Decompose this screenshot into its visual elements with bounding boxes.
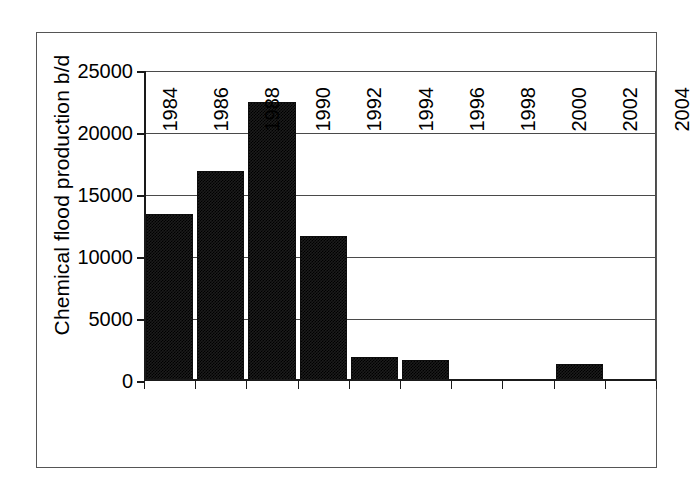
x-axis-line [144, 379, 656, 381]
x-tick-label: 2000 [568, 87, 591, 132]
y-tick [137, 381, 144, 383]
x-tick-label: 1988 [261, 87, 284, 132]
gridline [144, 71, 656, 72]
y-tick-label: 20000 [77, 122, 133, 145]
x-tick [656, 381, 657, 389]
y-tick-label: 10000 [77, 246, 133, 269]
y-tick [137, 257, 144, 259]
x-tick-label: 2004 [670, 87, 693, 132]
x-tick-label: 1998 [517, 87, 540, 132]
y-tick [137, 319, 144, 321]
y-tick [137, 133, 144, 135]
x-tick [451, 381, 452, 389]
y-tick-label: 5000 [89, 308, 134, 331]
bar [402, 360, 449, 381]
x-tick-label: 1984 [158, 87, 181, 132]
x-tick [349, 381, 350, 389]
y-tick-label: 25000 [77, 60, 133, 83]
x-tick-label: 1996 [465, 87, 488, 132]
y-axis-line [144, 71, 146, 381]
x-tick [195, 381, 196, 389]
x-tick [605, 381, 606, 389]
y-tick [137, 71, 144, 73]
x-tick-label: 1990 [312, 87, 335, 132]
x-tick [554, 381, 555, 389]
bar [146, 214, 193, 381]
bar [300, 236, 347, 381]
x-tick-label: 2002 [619, 87, 642, 132]
x-tick [246, 381, 247, 389]
x-tick [400, 381, 401, 389]
plot-area: 0500010000150002000025000 19841986198819… [144, 71, 656, 381]
y-tick [137, 195, 144, 197]
bar [248, 102, 295, 381]
chart-figure: Chemical flood production b/d 0500010000… [36, 32, 657, 468]
x-tick [502, 381, 503, 389]
bar [351, 357, 398, 381]
gridline [144, 133, 656, 134]
x-tick [298, 381, 299, 389]
x-tick-label: 1986 [209, 87, 232, 132]
y-axis-title: Chemical flood production b/d [50, 30, 74, 360]
bar [197, 171, 244, 381]
plot-right-border [655, 71, 656, 381]
y-tick-label: 0 [122, 370, 133, 393]
x-tick [144, 381, 145, 389]
y-tick-label: 15000 [77, 184, 133, 207]
x-tick-label: 1994 [414, 87, 437, 132]
x-tick-label: 1992 [363, 87, 386, 132]
